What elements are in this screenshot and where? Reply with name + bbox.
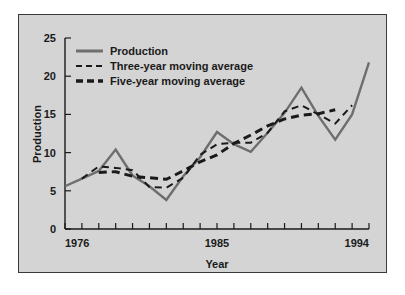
series-line-three-year-moving-average xyxy=(82,105,352,188)
y-axis-title: Production xyxy=(31,105,43,163)
x-tick-label: 1976 xyxy=(65,237,89,249)
legend-label-three-year-moving-average: Three-year moving average xyxy=(110,60,253,72)
y-tick-label: 5 xyxy=(50,185,56,197)
series-line-five-year-moving-average xyxy=(99,110,335,180)
y-tick-label: 25 xyxy=(44,32,56,44)
legend: Production Three-year moving average Fiv… xyxy=(76,45,253,87)
y-tick-label: 20 xyxy=(44,70,56,82)
y-tick-label: 10 xyxy=(44,147,56,159)
x-axis-title: Year xyxy=(205,258,229,270)
y-tick-group: 0510152025 xyxy=(44,32,71,235)
x-tick-label: 1985 xyxy=(205,237,229,249)
figure-panel: 0510152025 197619851994 Production Year … xyxy=(18,14,387,273)
y-tick-label: 15 xyxy=(44,108,56,120)
x-tick-label: 1994 xyxy=(345,237,370,249)
production-line-chart: 0510152025 197619851994 Production Year … xyxy=(19,15,386,272)
x-tick-group: 197619851994 xyxy=(65,223,370,249)
legend-label-production: Production xyxy=(110,45,168,57)
y-tick-label: 0 xyxy=(50,223,56,235)
legend-label-five-year-moving-average: Five-year moving average xyxy=(110,75,245,87)
